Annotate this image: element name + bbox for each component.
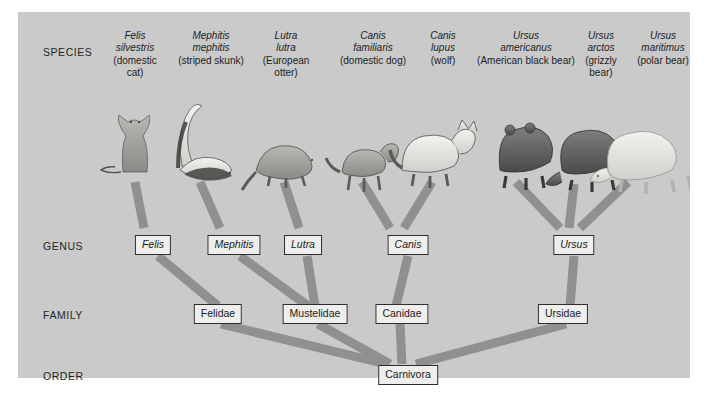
animal-domestic-cat — [101, 115, 150, 173]
species-epithet: familiaris — [331, 42, 415, 54]
animal-american-black-bear — [499, 123, 552, 190]
genus-box-mephitis[interactable]: Mephitis — [207, 235, 260, 255]
species-common-name-cont: cat) — [102, 67, 168, 79]
species-genus-name: Felis — [102, 30, 168, 42]
species-common-name: (domestic — [102, 55, 168, 67]
genus-box-lutra[interactable]: Lutra — [284, 235, 322, 255]
rank-label-family: FAMILY — [43, 309, 83, 321]
genus-box-ursus[interactable]: Ursus — [553, 235, 594, 255]
genus-box-canis[interactable]: Canis — [388, 235, 429, 255]
animal-european-otter — [242, 146, 313, 190]
species-common-name: (American black bear) — [463, 55, 589, 67]
rank-label-genus: GENUS — [43, 240, 83, 252]
species-genus-name: Ursus — [574, 30, 628, 42]
order-box-carnivora[interactable]: Carnivora — [378, 365, 438, 385]
species-common-name: (grizzly — [574, 55, 628, 67]
species-genus-name: Ursus — [463, 30, 589, 42]
species-common-name-cont: bear) — [574, 67, 628, 79]
species-label-mephitis-mephitis: Mephitis mephitis (striped skunk) — [168, 30, 254, 67]
family-box-ursidae[interactable]: Ursidae — [538, 304, 588, 324]
species-common-name: (striped skunk) — [168, 55, 254, 67]
species-genus-name: Lutra — [254, 30, 318, 42]
genus-box-felis[interactable]: Felis — [135, 235, 171, 255]
species-common-name: (polar bear) — [627, 55, 699, 67]
species-common-name: (domestic dog) — [331, 55, 415, 67]
species-label-ursus-maritimus: Ursus maritimus (polar bear) — [627, 30, 699, 67]
species-label-felis-silvestris: Felis silvestris (domestic cat) — [102, 30, 168, 80]
rank-label-order: ORDER — [43, 370, 84, 382]
species-common-name: (European — [254, 55, 318, 67]
species-common-name-cont: otter) — [254, 67, 318, 79]
animal-wolf — [390, 120, 477, 188]
species-epithet: mephitis — [168, 42, 254, 54]
cladogram-figure: SPECIES GENUS FAMILY ORDER Felis silvest… — [0, 0, 708, 402]
species-label-canis-familiaris: Canis familiaris (domestic dog) — [331, 30, 415, 67]
rank-label-species: SPECIES — [43, 46, 92, 58]
family-box-felidae[interactable]: Felidae — [194, 304, 242, 324]
species-epithet: americanus — [463, 42, 589, 54]
species-label-ursus-arctos: Ursus arctos (grizzly bear) — [574, 30, 628, 80]
diagram-panel: SPECIES GENUS FAMILY ORDER Felis silvest… — [18, 12, 690, 378]
species-genus-name: Mephitis — [168, 30, 254, 42]
species-epithet: silvestris — [102, 42, 168, 54]
family-box-canidae[interactable]: Canidae — [375, 304, 428, 324]
species-genus-name: Ursus — [627, 30, 699, 42]
species-epithet: maritimus — [627, 42, 699, 54]
species-epithet: arctos — [574, 42, 628, 54]
species-genus-name: Canis — [331, 30, 415, 42]
species-label-lutra-lutra: Lutra lutra (European otter) — [254, 30, 318, 80]
species-label-ursus-americanus: Ursus americanus (American black bear) — [463, 30, 589, 67]
species-epithet: lutra — [254, 42, 318, 54]
animal-striped-skunk — [178, 104, 232, 180]
family-box-mustelidae[interactable]: Mustelidae — [283, 304, 348, 324]
